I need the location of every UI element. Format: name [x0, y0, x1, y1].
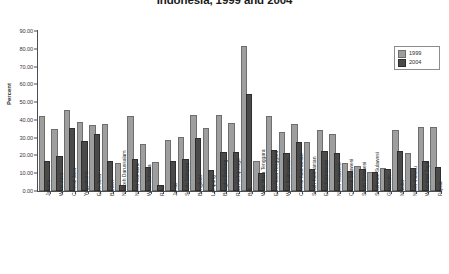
bar-group: [202, 0, 215, 191]
y-axis-tick-label: 10.00: [20, 170, 34, 176]
bar-group: [76, 0, 89, 191]
y-axis-tick-label: 20.00: [20, 152, 34, 158]
y-axis-tick-label: 70.00: [20, 64, 34, 70]
y-axis-tick-mark: [34, 191, 37, 192]
bar-group: [379, 0, 392, 191]
y-axis-tick-mark: [34, 84, 37, 85]
bar-group: [63, 0, 76, 191]
y-axis-tick-mark: [34, 31, 37, 32]
y-axis-tick-label: 50.00: [20, 99, 34, 105]
bar-group: [152, 0, 165, 191]
bar-group: [38, 0, 51, 191]
bar-group: [89, 0, 102, 191]
bar-group: [127, 0, 140, 191]
bar-chart: Indonesia, 1999 and 2004 Percent 1999 20…: [0, 0, 449, 274]
y-axis-tick-label: 0.00: [23, 188, 34, 194]
y-axis-tick-mark: [34, 155, 37, 156]
bar-group: [392, 0, 405, 191]
bar-group: [51, 0, 64, 191]
bar-group: [404, 0, 417, 191]
bar-group: [430, 0, 443, 191]
y-axis-tick-label: 60.00: [20, 81, 34, 87]
y-axis-tick-mark: [34, 48, 37, 49]
y-axis-tick-mark: [34, 137, 37, 138]
bar-group: [240, 0, 253, 191]
y-axis-title: Percent: [6, 83, 12, 105]
bar-group: [190, 0, 203, 191]
y-axis-tick-mark: [34, 119, 37, 120]
y-axis-tick-label: 30.00: [20, 135, 34, 141]
bar-group: [139, 0, 152, 191]
bar-group: [164, 0, 177, 191]
y-axis-tick-label: 40.00: [20, 117, 34, 123]
x-axis-category-label: Papua: [437, 182, 443, 196]
y-axis-tick-mark: [34, 173, 37, 174]
y-axis-tick-label: 80.00: [20, 46, 34, 52]
y-axis-tick-mark: [34, 66, 37, 67]
y-axis-tick-label: 90.00: [20, 28, 34, 34]
bar-group: [101, 0, 114, 191]
y-axis-tick-mark: [34, 102, 37, 103]
bar-2004: [246, 94, 252, 191]
